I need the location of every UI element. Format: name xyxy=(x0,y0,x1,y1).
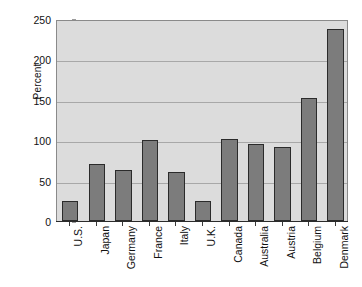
y-axis-tick-labels: 050100150200250 xyxy=(20,0,51,287)
bar xyxy=(89,164,105,221)
bar xyxy=(142,140,158,221)
y-tick-label: 0 xyxy=(20,217,51,227)
x-tick-mark xyxy=(282,222,283,226)
x-axis-tick-labels: U.S.JapanGermanyFranceItalyU.K.CanadaAus… xyxy=(56,222,348,287)
x-tick-mark xyxy=(229,222,230,226)
y-tick-label: 50 xyxy=(20,177,51,187)
y-tick-label: 100 xyxy=(20,136,51,146)
bar xyxy=(274,147,290,221)
x-tick-label: U.S. xyxy=(73,226,84,246)
x-tick-mark xyxy=(308,222,309,226)
bar xyxy=(327,29,343,221)
x-tick-label: Austria xyxy=(286,226,297,259)
bar xyxy=(221,139,237,221)
bar xyxy=(195,201,211,221)
x-tick-label: U.K. xyxy=(206,226,217,246)
bar xyxy=(248,144,264,221)
y-tick-label: 200 xyxy=(20,55,51,65)
x-tick-mark xyxy=(96,222,97,226)
x-tick-mark xyxy=(69,222,70,226)
x-tick-label: Denmark xyxy=(339,226,350,269)
x-tick-mark xyxy=(255,222,256,226)
bar xyxy=(301,98,317,221)
x-tick-label: Canada xyxy=(233,226,244,263)
x-tick-mark xyxy=(122,222,123,226)
x-tick-label: Belgium xyxy=(312,226,323,264)
x-tick-label: Germany xyxy=(126,226,137,269)
bar-chart-figure: Percent 050100150200250 U.S.JapanGermany… xyxy=(0,0,362,287)
x-tick-mark xyxy=(202,222,203,226)
x-tick-label: France xyxy=(153,226,164,259)
bar-series xyxy=(57,21,347,221)
y-tick-label: 150 xyxy=(20,96,51,106)
x-tick-mark xyxy=(149,222,150,226)
x-tick-label: Japan xyxy=(100,226,111,255)
x-tick-label: Italy xyxy=(179,226,190,245)
y-tick-label: 250 xyxy=(20,15,51,25)
bar xyxy=(168,172,184,221)
bar xyxy=(115,170,131,221)
bar xyxy=(62,201,78,221)
x-tick-label: Australia xyxy=(259,226,270,267)
x-tick-mark xyxy=(175,222,176,226)
x-tick-mark xyxy=(335,222,336,226)
plot-area xyxy=(56,20,348,222)
